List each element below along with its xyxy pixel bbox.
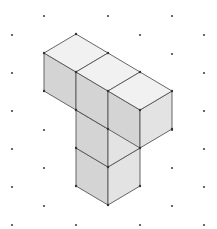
grid-dot [203, 72, 205, 74]
cube-vertex [139, 109, 141, 111]
cube-faces [44, 34, 172, 205]
isometric-drawing [0, 0, 217, 229]
cube-vertex [75, 71, 77, 73]
grid-dot [75, 224, 77, 226]
grid-dot [11, 72, 13, 74]
grid-dot [11, 110, 13, 112]
grid-dot [11, 34, 13, 36]
grid-dot [11, 224, 13, 226]
cube-vertex [75, 109, 77, 111]
cube-vertex [75, 33, 77, 35]
grid-dot [43, 167, 45, 169]
grid-dot [203, 34, 205, 36]
cube-vertex [43, 52, 45, 54]
cube-vertex [107, 90, 109, 92]
grid-dot [203, 224, 205, 226]
grid-dot [171, 53, 173, 55]
grid-dot [171, 15, 173, 17]
grid-dot [171, 167, 173, 169]
grid-dot [43, 129, 45, 131]
grid-dot [203, 186, 205, 188]
grid-dot [171, 205, 173, 207]
cube-vertex [43, 90, 45, 92]
cube-vertex [107, 52, 109, 54]
cube-vertex [75, 147, 77, 149]
grid-dot [11, 186, 13, 188]
cube-vertex [107, 166, 109, 168]
grid-dot [11, 148, 13, 150]
cube-vertex [139, 147, 141, 149]
cube-vertex [75, 185, 77, 187]
cube-figure [0, 0, 217, 229]
cube-vertex [107, 204, 109, 206]
cube-vertex [139, 185, 141, 187]
cube-vertex [171, 128, 173, 130]
cube-vertex [139, 71, 141, 73]
grid-dot [43, 15, 45, 17]
grid-dot [43, 205, 45, 207]
cube-vertex [171, 90, 173, 92]
grid-dot [139, 34, 141, 36]
grid-dot [107, 15, 109, 17]
grid-dot [203, 110, 205, 112]
grid-dot [203, 148, 205, 150]
grid-dot [139, 224, 141, 226]
cube-vertex [107, 128, 109, 130]
